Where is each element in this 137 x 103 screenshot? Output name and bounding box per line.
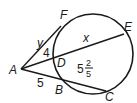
point-label-a: A (8, 63, 17, 77)
fraction-denominator: 5 (86, 69, 91, 79)
segment-label-4: 4 (43, 46, 50, 60)
fraction-numerator: 2 (86, 58, 91, 68)
point-label-f: F (60, 8, 68, 22)
point-label-e: E (124, 20, 133, 34)
point-label-b: B (55, 83, 63, 97)
geometry-diagram: A F E D B C y 4 x 5 5 2 5 (0, 0, 137, 103)
mixed-number-whole: 5 (77, 62, 84, 76)
segment-label-x: x (82, 31, 90, 45)
segment-label-5: 5 (37, 76, 44, 90)
point-label-c: C (105, 90, 114, 103)
segment-ac (21, 69, 106, 91)
point-label-d: D (57, 56, 66, 70)
